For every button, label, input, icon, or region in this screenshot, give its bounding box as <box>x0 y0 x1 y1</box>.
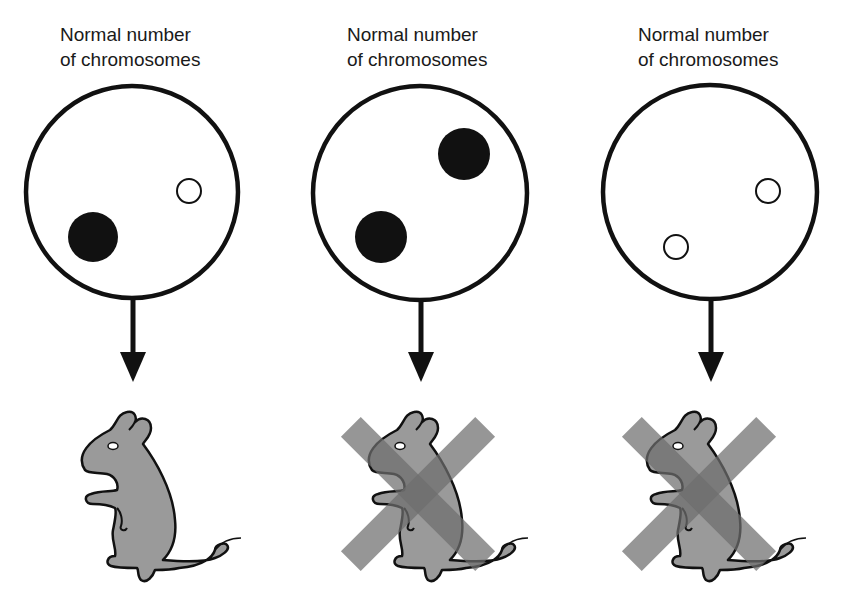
arrow-head-icon <box>698 352 724 382</box>
diagram-canvas <box>0 0 841 607</box>
mouse-icon <box>82 412 241 581</box>
cell-circle <box>603 85 817 299</box>
chromosome-hollow <box>664 235 688 259</box>
arrow-head-icon <box>408 352 434 382</box>
chromosome-hollow <box>177 179 201 203</box>
mouse-icon <box>369 412 528 581</box>
mouse-icon <box>647 412 806 581</box>
chromosome-filled <box>68 212 118 262</box>
cell-circle <box>313 86 527 300</box>
cell-circle <box>26 86 238 298</box>
panel-3 <box>603 85 817 581</box>
arrow-head-icon <box>120 352 146 382</box>
chromosome-filled <box>355 211 407 263</box>
panel-2 <box>313 86 528 581</box>
panel-1 <box>26 86 241 581</box>
chromosome-hollow <box>756 179 780 203</box>
chromosome-filled <box>438 128 490 180</box>
